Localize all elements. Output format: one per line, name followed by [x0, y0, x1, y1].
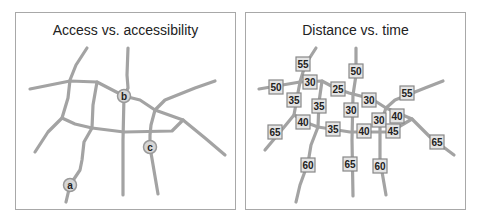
- speed-limit-sign: 30: [344, 103, 358, 117]
- svg-text:30: 30: [304, 77, 316, 88]
- speed-limit-sign: 55: [400, 86, 414, 100]
- svg-text:65: 65: [344, 159, 356, 170]
- svg-text:40: 40: [358, 126, 370, 137]
- svg-text:c: c: [147, 142, 153, 153]
- svg-text:65: 65: [431, 137, 443, 148]
- svg-text:25: 25: [332, 84, 344, 95]
- speed-limit-sign: 60: [301, 158, 315, 172]
- speed-limit-sign: 45: [386, 124, 400, 138]
- speed-limit-sign: 30: [303, 75, 317, 89]
- speed-limit-sign: 35: [287, 93, 301, 107]
- speed-limit-sign: 50: [269, 80, 283, 94]
- svg-text:60: 60: [302, 160, 314, 171]
- svg-text:50: 50: [350, 66, 362, 77]
- speed-limit-sign: 55: [296, 57, 310, 71]
- svg-text:35: 35: [288, 95, 300, 106]
- svg-text:55: 55: [297, 59, 309, 70]
- access-roads: [30, 48, 225, 202]
- speed-limit-sign: 30: [362, 93, 376, 107]
- speed-limit-sign: 40: [296, 115, 310, 129]
- speed-limit-sign: 30: [372, 113, 386, 127]
- location-node-a: a: [64, 179, 77, 192]
- speed-limit-sign: 65: [268, 125, 282, 139]
- svg-text:a: a: [67, 180, 73, 191]
- svg-text:50: 50: [270, 82, 282, 93]
- road-network-diagram: abc 555030255035353030554035403040456565…: [0, 0, 477, 218]
- svg-text:35: 35: [313, 101, 325, 112]
- speed-limit-sign: 25: [331, 82, 345, 96]
- svg-text:45: 45: [387, 126, 399, 137]
- location-node-c: c: [144, 141, 157, 154]
- speed-limit-sign: 35: [312, 99, 326, 113]
- svg-text:35: 35: [327, 124, 339, 135]
- svg-text:30: 30: [373, 115, 385, 126]
- location-node-b: b: [118, 90, 131, 103]
- speed-limit-sign: 60: [373, 159, 387, 173]
- speed-limit-sign: 50: [349, 64, 363, 78]
- speed-limit-sign: 65: [343, 157, 357, 171]
- svg-text:65: 65: [269, 127, 281, 138]
- svg-text:55: 55: [401, 88, 413, 99]
- svg-text:30: 30: [363, 95, 375, 106]
- svg-text:40: 40: [297, 117, 309, 128]
- speed-limit-sign: 65: [430, 135, 444, 149]
- svg-text:b: b: [121, 91, 127, 102]
- speed-limit-sign: 35: [326, 122, 340, 136]
- svg-text:60: 60: [374, 161, 386, 172]
- speed-limit-sign: 40: [390, 109, 404, 123]
- svg-text:30: 30: [345, 105, 357, 116]
- speed-limit-sign: 40: [357, 124, 371, 138]
- svg-text:40: 40: [391, 111, 403, 122]
